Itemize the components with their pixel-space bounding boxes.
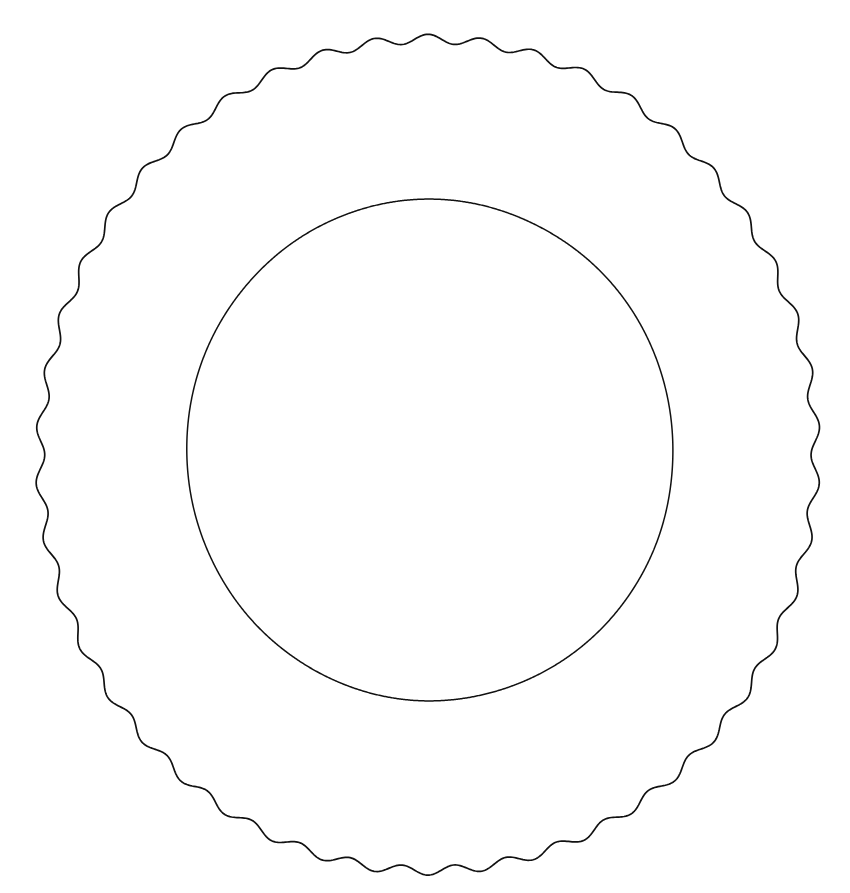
plate-drawing bbox=[0, 0, 850, 893]
illustration-canvas bbox=[0, 0, 850, 893]
canvas-background bbox=[0, 0, 850, 893]
